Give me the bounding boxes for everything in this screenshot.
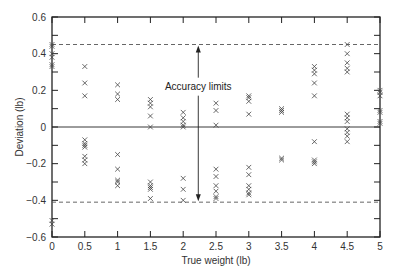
accuracy-limits-annotation: Accuracy limits bbox=[165, 46, 232, 202]
data-point-x-marker bbox=[312, 81, 317, 86]
x-tick-label: 5 bbox=[377, 241, 383, 252]
x-tick-label: 0.5 bbox=[78, 241, 92, 252]
x-tick-label: 2 bbox=[180, 241, 186, 252]
arrowhead-down-icon bbox=[196, 194, 201, 201]
y-tick-label: −0.4 bbox=[26, 195, 46, 206]
data-point-x-marker bbox=[246, 172, 251, 177]
x-tick-label: 1 bbox=[115, 241, 121, 252]
data-point-x-marker bbox=[214, 108, 219, 113]
data-point-x-marker bbox=[82, 64, 87, 69]
data-point-x-marker bbox=[214, 167, 219, 172]
data-point-x-marker bbox=[312, 71, 317, 76]
data-point-x-marker bbox=[82, 81, 87, 86]
data-point-x-marker bbox=[312, 139, 317, 144]
data-point-x-marker bbox=[214, 189, 219, 194]
data-point-x-marker bbox=[181, 198, 186, 203]
y-tick-label: 0.6 bbox=[32, 12, 46, 23]
data-point-x-marker bbox=[345, 70, 350, 75]
x-tick-label: 4.5 bbox=[340, 241, 354, 252]
x-axis-label: True weight (lb) bbox=[181, 255, 250, 266]
data-point-x-marker bbox=[148, 104, 153, 109]
data-point-x-marker bbox=[181, 110, 186, 115]
data-point-x-marker bbox=[345, 60, 350, 65]
data-point-x-marker bbox=[345, 139, 350, 144]
data-point-x-marker bbox=[148, 114, 153, 119]
data-point-x-marker bbox=[115, 167, 120, 172]
data-point-x-marker bbox=[214, 183, 219, 188]
data-point-x-marker bbox=[214, 174, 219, 179]
data-point-x-marker bbox=[115, 92, 120, 97]
data-point-x-marker bbox=[115, 82, 120, 87]
y-tick-label: −0.2 bbox=[26, 158, 46, 169]
y-axis-label: Deviation (lb) bbox=[14, 98, 25, 157]
x-tick-label: 0 bbox=[49, 241, 55, 252]
data-point-x-marker bbox=[82, 161, 87, 166]
data-points bbox=[50, 42, 383, 226]
y-tick-label: 0.2 bbox=[32, 85, 46, 96]
data-point-x-marker bbox=[214, 101, 219, 106]
data-point-x-marker bbox=[181, 187, 186, 192]
data-point-x-marker bbox=[246, 165, 251, 170]
accuracy-limits-label: Accuracy limits bbox=[165, 81, 232, 92]
data-point-x-marker bbox=[345, 134, 350, 139]
x-tick-label: 2.5 bbox=[209, 241, 223, 252]
data-point-x-marker bbox=[246, 112, 251, 117]
data-point-x-marker bbox=[345, 51, 350, 56]
data-point-x-marker bbox=[246, 99, 251, 104]
data-point-x-marker bbox=[345, 119, 350, 124]
x-tick-label: 3 bbox=[246, 241, 252, 252]
y-tick-label: 0.4 bbox=[32, 48, 46, 59]
data-point-x-marker bbox=[115, 183, 120, 188]
data-point-x-marker bbox=[82, 93, 87, 98]
data-point-x-marker bbox=[148, 196, 153, 201]
axis-ticks: 00.511.522.533.544.55−0.6−0.4−0.200.20.4… bbox=[26, 12, 383, 253]
arrowhead-up-icon bbox=[196, 46, 201, 53]
data-point-x-marker bbox=[115, 152, 120, 157]
data-point-x-marker bbox=[115, 97, 120, 102]
x-tick-label: 1.5 bbox=[143, 241, 157, 252]
deviation-scatter-chart: 00.511.522.533.544.55−0.6−0.4−0.200.20.4… bbox=[0, 0, 397, 275]
data-point-x-marker bbox=[312, 93, 317, 98]
reference-lines bbox=[52, 45, 380, 203]
data-point-x-marker bbox=[181, 176, 186, 181]
x-tick-label: 3.5 bbox=[275, 241, 289, 252]
x-tick-label: 4 bbox=[312, 241, 318, 252]
y-tick-label: −0.6 bbox=[26, 232, 46, 243]
y-tick-label: 0 bbox=[40, 122, 46, 133]
